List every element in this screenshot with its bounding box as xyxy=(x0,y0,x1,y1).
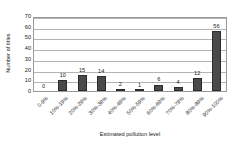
bar-value-label: 12 xyxy=(194,71,200,77)
bar[interactable] xyxy=(78,75,87,91)
x-tick-label: 30%-39% xyxy=(87,96,107,116)
bar-value-label: 15 xyxy=(79,68,85,74)
bar-slot[interactable]: 2 xyxy=(111,18,130,91)
bar-slot[interactable]: 0 xyxy=(34,18,53,91)
x-tick-label: 70%-79% xyxy=(165,96,185,116)
bar-slot[interactable]: 6 xyxy=(149,18,168,91)
bar-value-label: 14 xyxy=(98,69,104,75)
bar-chart: Number of titles 010203040506070 0101514… xyxy=(0,0,237,144)
y-tick-label: 10 xyxy=(25,78,31,84)
y-tick-label: 60 xyxy=(25,25,31,31)
bar-slot[interactable]: 14 xyxy=(92,18,111,91)
plot-area: 010151421641256 xyxy=(33,17,227,92)
bar-slot[interactable]: 1 xyxy=(130,18,149,91)
bar-slot[interactable]: 56 xyxy=(207,18,226,91)
y-tick-label: 0 xyxy=(28,89,31,95)
x-tick-label: 40%-49% xyxy=(107,96,127,116)
bar-value-label: 1 xyxy=(138,83,141,89)
bar-slot[interactable]: 12 xyxy=(188,18,207,91)
bar-value-label: 56 xyxy=(213,24,219,30)
y-axis-title: Number of titles xyxy=(5,16,11,90)
x-tick-label: 50%-59% xyxy=(126,96,146,116)
bar-value-label: 6 xyxy=(157,77,160,83)
bar-value-label: 0 xyxy=(42,84,45,90)
bar[interactable] xyxy=(97,76,106,91)
bar[interactable] xyxy=(116,89,125,91)
y-tick-label: 40 xyxy=(25,46,31,52)
bars-container: 010151421641256 xyxy=(34,18,226,91)
x-axis-tick-labels: 0-9%10%-19%20%-29%30%-39%40%-49%50%-59%6… xyxy=(33,93,227,125)
bar-value-label: 10 xyxy=(60,73,66,79)
y-axis-tick-labels: 010203040506070 xyxy=(14,17,31,92)
bar[interactable] xyxy=(154,85,163,91)
bar[interactable] xyxy=(135,89,144,91)
bar[interactable] xyxy=(212,31,221,91)
x-tick-label: 10%-19% xyxy=(49,96,69,116)
bar-value-label: 2 xyxy=(119,82,122,88)
y-tick-label: 20 xyxy=(25,68,31,74)
x-tick-label: 60%-69% xyxy=(146,96,166,116)
x-tick-label: 0-9% xyxy=(37,96,50,109)
y-tick-label: 50 xyxy=(25,36,31,42)
bar-value-label: 4 xyxy=(176,80,179,86)
bar[interactable] xyxy=(58,80,67,91)
bar[interactable] xyxy=(174,87,183,91)
y-tick-label: 70 xyxy=(25,14,31,20)
x-axis-title: Estimated pollution level xyxy=(33,131,227,137)
bar-slot[interactable]: 15 xyxy=(72,18,91,91)
bar-slot[interactable]: 4 xyxy=(168,18,187,91)
bar[interactable] xyxy=(193,78,202,91)
bar-slot[interactable]: 10 xyxy=(53,18,72,91)
y-tick-label: 30 xyxy=(25,57,31,63)
x-tick-label: 20%-29% xyxy=(68,96,88,116)
